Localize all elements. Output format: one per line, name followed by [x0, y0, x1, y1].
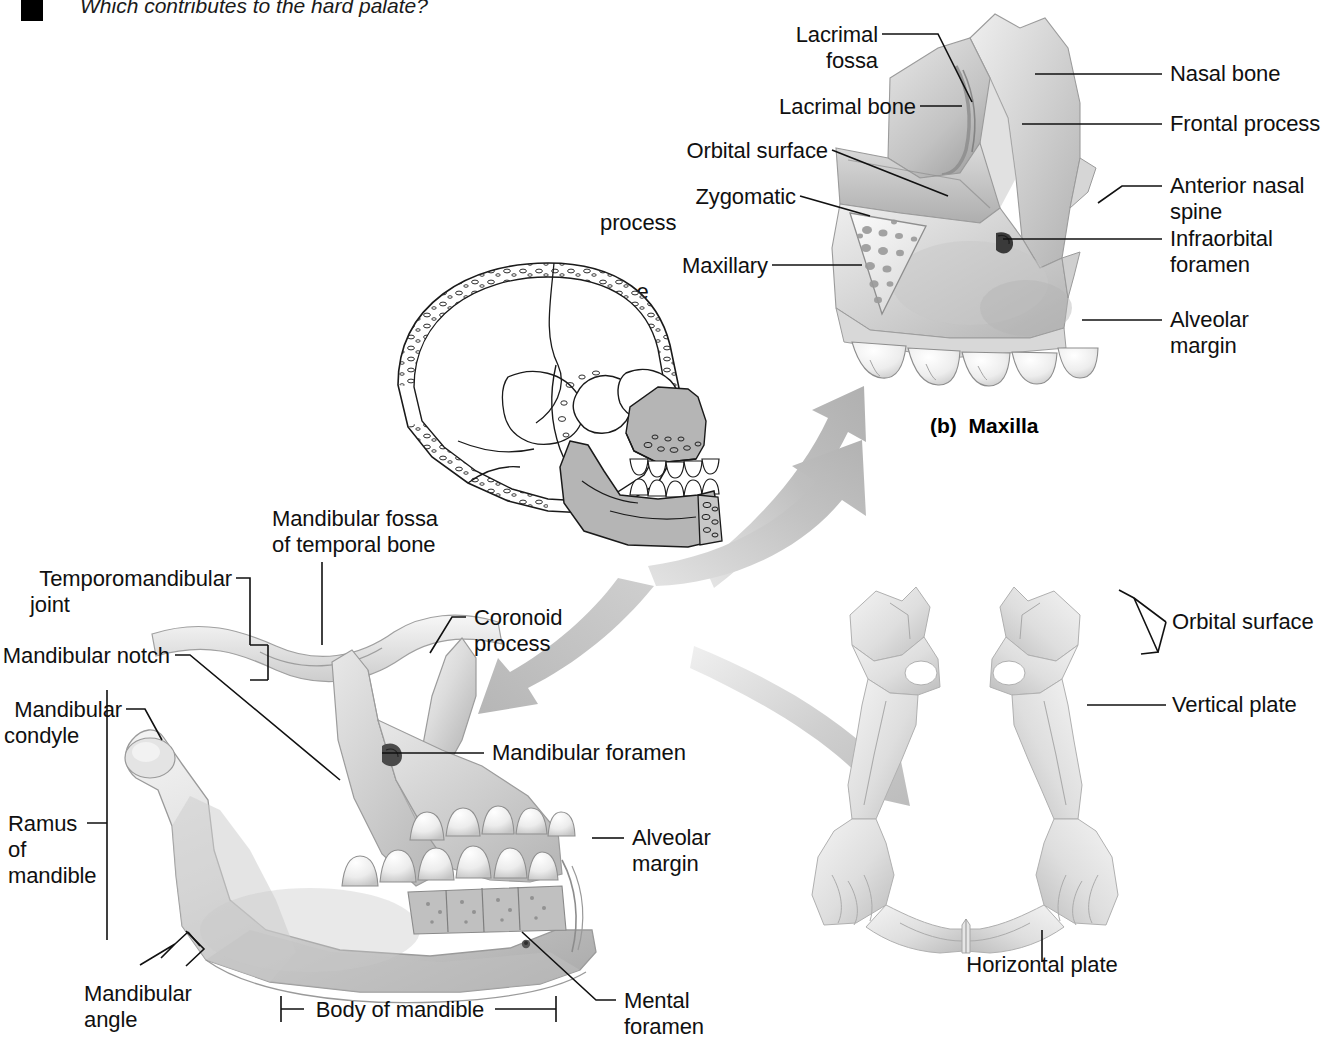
label-line: Nasal bone [1170, 61, 1280, 86]
label-line: Horizontal plate [966, 952, 1117, 977]
palatine-label-vertical-plate: Vertical plate [1172, 692, 1297, 718]
label-line: angle [84, 1007, 137, 1032]
label-line: Orbital surface [686, 138, 828, 163]
label-line: Lacrimal bone [779, 94, 916, 119]
mandible-label-mandibular-notch: Mandibular notch [0, 643, 170, 669]
label-line: Mandibular fossa [272, 506, 438, 531]
label-line: process [474, 631, 550, 656]
mandible-label-ramus-of-mandible: Ramusofmandible [8, 811, 96, 889]
mandible-label-mandibular-fossa-temporal: Mandibular fossaof temporal bone [272, 506, 438, 558]
label-line: of [8, 837, 26, 862]
maxilla-label-lacrimal-fossa: Lacrimalfossa [600, 22, 878, 74]
maxilla-label-infraorbital-foramen: Infraorbitalforamen [1170, 226, 1273, 278]
label-line: Orbital surface [1172, 609, 1314, 634]
mandible-label-alveolar-margin: Alveolarmargin [632, 825, 711, 877]
maxilla-label-nasal-bone: Nasal bone [1170, 61, 1280, 87]
maxilla-label-frontal-process: Frontal process [1170, 111, 1320, 137]
label-line: fossa [826, 48, 878, 73]
mandible-label-tmj: Temporomandibularjoint [0, 566, 232, 618]
label-line: Anterior nasal [1170, 173, 1304, 198]
maxilla-illustration [830, 8, 1160, 398]
label-line: Temporomandibular [39, 566, 232, 591]
maxilla-label-anterior-nasal-spine: Anterior nasalspine [1170, 173, 1304, 225]
maxilla-label-zygomatic-process: Zygomaticprocess [600, 184, 796, 236]
maxilla-label-orbital-surface: Orbital surface [600, 138, 828, 164]
question-text: Which contributes to the hard palate? [80, 0, 428, 18]
figure-page: Which contributes to the hard palate? [0, 0, 1328, 1064]
label-line: Mandibular foramen [492, 740, 686, 765]
mandible-label-mandibular-condyle: Mandibularcondyle [0, 697, 122, 749]
label-line: joint [0, 592, 232, 618]
label-line: Body of mandible [316, 997, 484, 1022]
label-line: spine [1170, 199, 1222, 224]
label-line: Infraorbital [1170, 226, 1273, 251]
mandible-label-mandibular-angle: Mandibularangle [84, 981, 192, 1033]
label-line: of temporal bone [272, 532, 436, 557]
label-line: process [600, 210, 796, 236]
label-line: Coronoid [474, 605, 562, 630]
palatine-illustration [790, 575, 1140, 965]
label-line: Frontal process [1170, 111, 1320, 136]
label-line: margin [1170, 333, 1237, 358]
mandible-label-mental-foramen: Mentalforamen [624, 988, 704, 1040]
mandible-label-coronoid-process: Coronoidprocess [474, 605, 562, 657]
label-line: Vertical plate [1172, 692, 1297, 717]
label-line: Mandibular [84, 981, 192, 1006]
maxilla-label-lacrimal-bone: Lacrimal bone [620, 94, 916, 120]
label-line: foramen [1170, 252, 1250, 277]
label-line: Alveolar [632, 825, 711, 850]
label-line: Zygomatic [695, 184, 796, 209]
label-line: condyle [0, 723, 122, 749]
palatine-label-orbital-surface: Orbital surface [1172, 609, 1314, 635]
palatine-label-horizontal-plate: Horizontal plate [942, 952, 1142, 978]
mandible-label-body-of-mandible: Body of mandible [306, 997, 494, 1023]
label-line: Mandibular notch [3, 643, 170, 668]
mandible-label-mandibular-foramen: Mandibular foramen [492, 740, 686, 766]
label-line: margin [632, 851, 699, 876]
black-square-bullet-icon [21, 0, 43, 21]
maxilla-caption: (b) Maxilla [930, 414, 1039, 438]
mandible-illustration [110, 600, 650, 1030]
label-line: Lacrimal [796, 22, 878, 47]
label-line: Ramus [8, 811, 77, 836]
label-line: Mandibular [14, 697, 122, 722]
maxilla-label-alveolar-margin: Alveolarmargin [1170, 307, 1249, 359]
label-line: Alveolar [1170, 307, 1249, 332]
label-line: foramen [624, 1014, 704, 1039]
label-line: mandible [8, 863, 96, 888]
label-line: Mental [624, 988, 689, 1013]
